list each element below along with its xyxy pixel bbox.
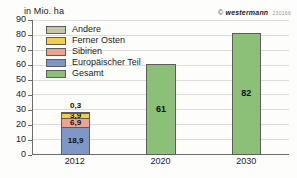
x-axis-label-2012: 2012 bbox=[65, 156, 85, 166]
copyright-symbol: © bbox=[218, 9, 223, 16]
y-axis-tick-label: 0 bbox=[21, 149, 26, 159]
chart-legend: AndereFerner OstenSibirienEuropäischer T… bbox=[46, 24, 141, 79]
bar-2020[interactable]: 61 bbox=[146, 63, 175, 154]
legend-item-ferner-osten[interactable]: Ferner Osten bbox=[46, 35, 141, 46]
legend-swatch-icon bbox=[46, 59, 66, 67]
bar-segment-value: 18,9 bbox=[68, 137, 84, 145]
legend-item-gesamt[interactable]: Gesamt bbox=[46, 68, 141, 79]
bar-segment-europ-ischer-teil[interactable]: 18,9 bbox=[61, 127, 90, 155]
y-axis-tick-label: 50 bbox=[16, 74, 26, 84]
legend-swatch-icon bbox=[46, 48, 66, 56]
bar-2030[interactable]: 82 bbox=[232, 32, 261, 154]
legend-item-europ-ischer-teil[interactable]: Europäischer Teil bbox=[46, 57, 141, 68]
y-axis-tick-label: 40 bbox=[16, 89, 26, 99]
legend-item-sibirien[interactable]: Sibirien bbox=[46, 46, 141, 57]
y-axis-tick-label: 80 bbox=[16, 29, 26, 39]
chart-container: in Mio. ha © westermann 230166 010203040… bbox=[0, 0, 297, 178]
y-axis-tick-label: 90 bbox=[16, 14, 26, 24]
legend-item-label: Sibirien bbox=[72, 47, 102, 56]
bar-segment-gesamt[interactable]: 82 bbox=[232, 33, 261, 155]
legend-item-label: Ferner Osten bbox=[72, 36, 125, 45]
y-axis-tick-label: 20 bbox=[16, 119, 26, 129]
publisher-watermark: © westermann 230166 bbox=[218, 9, 291, 16]
legend-item-label: Gesamt bbox=[72, 69, 104, 78]
bar-segment-value: 0,3 bbox=[70, 102, 81, 110]
y-axis-tick-label: 70 bbox=[16, 44, 26, 54]
bar-segment-gesamt[interactable]: 61 bbox=[146, 64, 175, 155]
bar-segment-value: 82 bbox=[241, 89, 251, 98]
legend-item-label: Europäischer Teil bbox=[72, 58, 141, 67]
publisher-name: westermann bbox=[225, 9, 268, 16]
bar-segment-andere[interactable]: 0,3 bbox=[61, 112, 90, 114]
bar-2012[interactable]: 18,96,93,90,3 bbox=[61, 109, 90, 154]
publisher-code: 230166 bbox=[273, 10, 292, 16]
bar-segment-value: 61 bbox=[156, 105, 166, 114]
y-axis-tick-label: 60 bbox=[16, 59, 26, 69]
x-axis: 201220202030 bbox=[32, 156, 289, 172]
legend-swatch-icon bbox=[46, 26, 66, 34]
y-axis: 0102030405060708090 bbox=[0, 20, 32, 155]
y-axis-unit-label: in Mio. ha bbox=[24, 6, 64, 16]
x-axis-label-2020: 2020 bbox=[150, 156, 170, 166]
legend-item-label: Andere bbox=[72, 25, 101, 34]
y-axis-tick-label: 10 bbox=[16, 134, 26, 144]
y-axis-tick-label: 30 bbox=[16, 104, 26, 114]
legend-swatch-icon bbox=[46, 37, 66, 45]
bar-segment-value: 6,9 bbox=[70, 119, 81, 127]
legend-swatch-icon bbox=[46, 70, 66, 78]
x-axis-label-2030: 2030 bbox=[236, 156, 256, 166]
legend-item-andere[interactable]: Andere bbox=[46, 24, 141, 35]
